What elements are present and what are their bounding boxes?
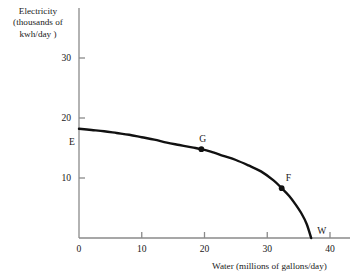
x-axis-title: Water (millions of gallons/day) — [212, 261, 327, 272]
x-tick-label: 40 — [319, 243, 341, 254]
y-tick-label: 30 — [49, 52, 71, 63]
data-point-g — [198, 146, 204, 152]
axes-group — [79, 8, 350, 238]
point-label-w: W — [317, 225, 326, 236]
curve-group — [79, 129, 311, 238]
point-label-f: F — [286, 172, 291, 183]
x-tick-label: 0 — [68, 243, 90, 254]
frontier-curve — [79, 129, 311, 238]
chart-container: Electricity (thousands of kwh/day ) Wate… — [0, 0, 354, 279]
x-tick-label: 20 — [194, 243, 216, 254]
y-tick-label: 20 — [49, 112, 71, 123]
plot-area — [0, 0, 354, 279]
point-label-g: G — [199, 133, 206, 144]
point-label-e: E — [69, 136, 75, 147]
y-tick-label: 10 — [49, 172, 71, 183]
x-tick-label: 30 — [256, 243, 278, 254]
x-tick-label: 10 — [131, 243, 153, 254]
y-axis-title: Electricity (thousands of kwh/day ) — [2, 6, 74, 40]
data-point-f — [279, 185, 285, 191]
